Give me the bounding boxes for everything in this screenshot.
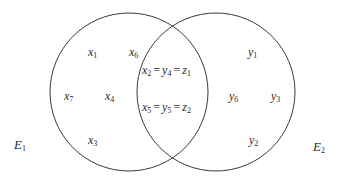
element-e2-only: y6 — [229, 90, 238, 104]
element-e2-only: y2 — [249, 134, 258, 148]
element-intersection: x5=y5=z2 — [142, 101, 191, 115]
set-label-e1: E1 — [14, 138, 26, 153]
element-e2-only: y3 — [271, 90, 280, 104]
venn-circles — [0, 0, 337, 181]
variable-subscript: 1 — [187, 69, 191, 78]
element-e1-only: x6 — [129, 46, 138, 60]
equals-sign: = — [173, 63, 180, 77]
element-intersection: x2=y4=z1 — [142, 64, 191, 78]
variable-symbol: E — [14, 137, 22, 152]
set-e1-circle — [50, 13, 208, 171]
element-e1-only: x3 — [88, 134, 97, 148]
variable-subscript: 7 — [69, 95, 73, 104]
variable-subscript: 6 — [134, 51, 138, 60]
equals-sign: = — [153, 63, 160, 77]
variable-subscript: 2 — [321, 146, 325, 155]
variable-subscript: 4 — [167, 69, 171, 78]
equals-sign: = — [173, 100, 180, 114]
variable-subscript: 5 — [147, 106, 151, 115]
variable-subscript: 2 — [147, 69, 151, 78]
variable-subscript: 1 — [93, 51, 97, 60]
element-e1-only: x7 — [64, 90, 73, 104]
venn-diagram: E1E2x1x6x7x4x3y1y6y3y2x2=y4=z1x5=y5=z2 — [0, 0, 337, 181]
variable-subscript: 3 — [276, 95, 280, 104]
variable-subscript: 4 — [110, 95, 114, 104]
variable-subscript: 6 — [234, 95, 238, 104]
variable-subscript: 1 — [253, 51, 257, 60]
variable-subscript: 1 — [22, 144, 26, 153]
element-e1-only: x1 — [88, 46, 97, 60]
variable-symbol: E — [313, 139, 321, 154]
set-label-e2: E2 — [313, 140, 325, 155]
variable-subscript: 2 — [254, 139, 258, 148]
variable-subscript: 5 — [167, 106, 171, 115]
element-e2-only: y1 — [248, 46, 257, 60]
variable-subscript: 2 — [187, 106, 191, 115]
variable-subscript: 3 — [93, 139, 97, 148]
element-e1-only: x4 — [105, 90, 114, 104]
equals-sign: = — [153, 100, 160, 114]
